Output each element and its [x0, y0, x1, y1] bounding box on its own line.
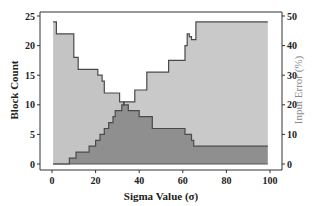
y-tick-label-left: 25 — [25, 11, 35, 22]
x-tick-label: 80 — [221, 175, 231, 186]
x-tick-label: 60 — [178, 175, 188, 186]
y-tick-label-left: 5 — [30, 129, 35, 140]
y-axis-title-right: Input Error (%) — [292, 55, 305, 124]
x-tick-label: 20 — [91, 175, 101, 186]
y-tick-label-right: 0 — [287, 159, 292, 170]
plot-area — [53, 22, 268, 164]
y-tick-label-left: 20 — [25, 40, 35, 51]
x-tick-label: 0 — [50, 175, 55, 186]
y-tick-label-left: 15 — [25, 70, 35, 81]
y-tick-label-right: 40 — [287, 40, 297, 51]
x-tick-label: 40 — [134, 175, 144, 186]
y-tick-label-left: 10 — [25, 99, 35, 110]
step-area-chart: 020406080100051015202501020304050 Sigma … — [0, 0, 318, 206]
x-tick-label: 100 — [263, 175, 278, 186]
y-tick-label-right: 10 — [287, 129, 297, 140]
y-axis-title-left: Block Count — [8, 60, 20, 119]
x-axis-title: Sigma Value (σ) — [124, 190, 199, 203]
y-tick-label-left: 0 — [30, 159, 35, 170]
y-tick-label-right: 50 — [287, 11, 297, 22]
